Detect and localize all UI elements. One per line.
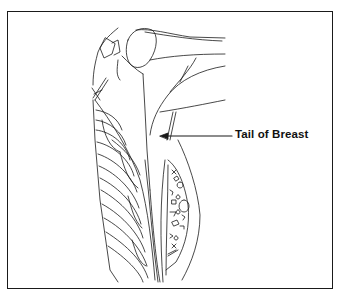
anatomy-drawing: [0, 0, 338, 293]
pin-marker: [92, 78, 108, 100]
shoulder-joint: [93, 28, 225, 190]
rib-cage-muscle: [93, 100, 160, 282]
tail-of-breast-label: Tail of Breast: [235, 128, 308, 140]
